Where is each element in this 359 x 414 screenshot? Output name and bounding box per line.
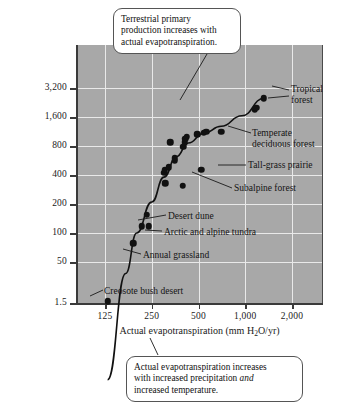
- callout-bottom-emphasis: and: [240, 373, 254, 383]
- callout-bottom: Actual evapotranspiration increases with…: [126, 356, 303, 402]
- leader-line: [145, 230, 162, 231]
- leader-line: [272, 86, 289, 90]
- annotation-temperate-deciduous-forest: Temperate deciduous forest: [252, 128, 338, 149]
- leader-line: [180, 54, 207, 100]
- callout-top-line2: production increases with: [121, 25, 217, 35]
- annotation-subalpine-forest: Subalpine forest: [234, 183, 296, 194]
- leader-line: [138, 215, 166, 220]
- annotation-arctic-and-alpine-tundra: Arctic and alpine tundra: [164, 227, 256, 238]
- annotation-tall-grass-prairie: Tall-grass prairie: [248, 160, 313, 171]
- curve-and-leader-lines: [0, 0, 359, 414]
- callout-top: Terrestrial primary production increases…: [113, 8, 241, 54]
- figure-container: 1252505001,0002,0003,2001,60080040020010…: [0, 0, 359, 414]
- callout-bottom-line1: Actual evapotranspiration increases: [134, 362, 267, 372]
- callout-bottom-line2: with increased precipitation: [134, 373, 240, 383]
- callout-bottom-line3: increased temperature.: [134, 385, 218, 395]
- fit-curve: [108, 98, 264, 379]
- annotation-temperate-line1: Temperate: [252, 128, 292, 138]
- leader-line: [90, 290, 103, 296]
- leader-line: [268, 96, 289, 98]
- leader-line: [192, 172, 232, 188]
- annotation-annual-grassland: Annual grassland: [143, 250, 209, 261]
- annotation-tropical-forest: Tropical forest: [291, 84, 359, 105]
- callout-top-line3: actual evapotranspiration.: [121, 37, 217, 47]
- callout-top-line1: Terrestrial primary: [121, 14, 191, 24]
- leader-line: [228, 126, 251, 133]
- leader-line: [150, 338, 158, 355]
- annotation-tropical-forest-line1: Tropical: [291, 84, 323, 94]
- annotation-creosote-bush-desert: Creosote bush desert: [104, 286, 183, 297]
- annotation-tropical-forest-line2: forest: [291, 95, 313, 105]
- annotation-temperate-line2: deciduous forest: [252, 139, 315, 149]
- annotation-desert-dune: Desert dune: [168, 211, 214, 222]
